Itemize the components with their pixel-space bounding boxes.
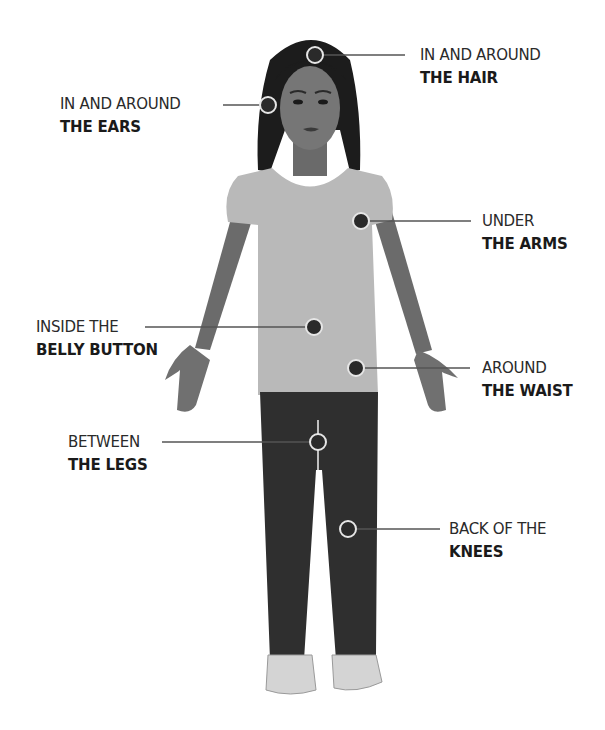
marker-arms	[353, 213, 369, 229]
left-shoe	[266, 655, 316, 694]
pants	[260, 392, 378, 660]
callout-waist: AROUND THE WAIST	[482, 357, 573, 403]
right-arm	[373, 212, 432, 354]
callout-arms-line1: UNDER	[482, 210, 568, 233]
callout-hair-line2: THE HAIR	[420, 67, 541, 90]
marker-belly	[306, 319, 322, 335]
marker-knees	[340, 521, 356, 537]
callout-belly-line1: INSIDE THE	[36, 316, 158, 339]
face	[280, 66, 340, 150]
callout-belly: INSIDE THE BELLY BUTTON	[36, 316, 158, 362]
left-arm	[195, 215, 252, 350]
callout-arms-line2: THE ARMS	[482, 233, 568, 256]
callout-ears: IN AND AROUND THE EARS	[60, 93, 181, 139]
callout-legs: BETWEEN THE LEGS	[68, 431, 148, 477]
callout-knees: BACK OF THE KNEES	[449, 518, 546, 564]
marker-hair	[307, 47, 323, 63]
callout-legs-line1: BETWEEN	[68, 431, 148, 454]
callout-knees-line2: KNEES	[449, 541, 546, 564]
callout-legs-line2: THE LEGS	[68, 454, 148, 477]
callout-ears-line2: THE EARS	[60, 116, 181, 139]
right-shoe	[332, 655, 382, 690]
callout-hair-line1: IN AND AROUND	[420, 44, 541, 67]
left-eye	[293, 100, 303, 105]
callout-knees-line1: BACK OF THE	[449, 518, 546, 541]
right-eye	[318, 100, 328, 105]
left-hand	[165, 345, 210, 412]
right-hand	[414, 350, 458, 412]
callout-waist-line2: THE WAIST	[482, 380, 573, 403]
marker-ears	[260, 97, 276, 113]
shirt	[226, 168, 393, 395]
callout-waist-line1: AROUND	[482, 357, 573, 380]
marker-legs	[310, 434, 326, 450]
callout-belly-line2: BELLY BUTTON	[36, 339, 158, 362]
callout-ears-line1: IN AND AROUND	[60, 93, 181, 116]
callout-hair: IN AND AROUND THE HAIR	[420, 44, 541, 90]
marker-waist	[348, 360, 364, 376]
callout-arms: UNDER THE ARMS	[482, 210, 568, 256]
